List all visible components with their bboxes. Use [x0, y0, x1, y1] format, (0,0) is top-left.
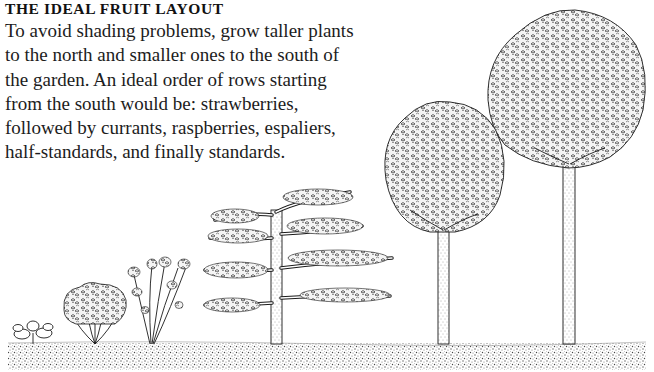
standard-tree-icon — [488, 10, 645, 344]
strawberry-plant-icon — [13, 321, 53, 344]
page: THE IDEAL FRUIT LAYOUT To avoid shading … — [0, 0, 654, 372]
fruit-layout-illustration — [0, 0, 654, 372]
ground-strip — [8, 343, 646, 370]
espalier-tree-icon — [204, 189, 392, 344]
currant-bush-icon — [64, 283, 126, 344]
raspberry-canes-icon — [128, 257, 190, 344]
half-standard-tree-icon — [385, 101, 504, 344]
